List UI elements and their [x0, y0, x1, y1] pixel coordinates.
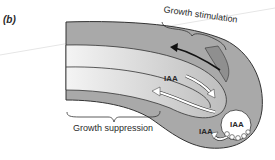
- growth-stimulation-label: Growth stimulation: [163, 4, 238, 24]
- amyloplast: [230, 135, 235, 140]
- iaa-label-statocyte: IAA: [230, 120, 244, 129]
- amyloplast: [242, 134, 247, 139]
- amyloplast: [225, 132, 230, 137]
- amyloplast: [246, 130, 250, 134]
- iaa-label-lower: IAA: [199, 127, 213, 136]
- iaa-label-upper: IAA: [164, 74, 178, 83]
- root-gravitropism-diagram: (b) Growth stimulation Growth suppressio…: [0, 0, 275, 160]
- panel-label: (b): [3, 14, 16, 25]
- growth-suppression-label: Growth suppression: [73, 123, 153, 133]
- amyloplast: [236, 136, 241, 141]
